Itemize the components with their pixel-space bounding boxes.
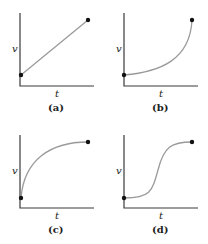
panel-b-curve <box>124 20 192 75</box>
panel-c-caption: (c) <box>48 224 64 235</box>
panel-d: v t (d) <box>116 135 198 235</box>
panel-b-end-dot <box>190 18 194 22</box>
panel-a-start-dot <box>19 73 23 77</box>
panel-a-caption: (a) <box>48 102 64 113</box>
figure-four-velocity-graphs: v t (a) v t (b) v t (c) v t (d) <box>0 0 208 244</box>
panel-b: v t (b) <box>116 13 198 113</box>
panel-c-axes <box>20 135 94 208</box>
panel-d-curve <box>124 142 192 198</box>
panel-c: v t (c) <box>12 135 94 235</box>
panel-d-xlabel: t <box>159 210 164 221</box>
panel-a-curve <box>21 20 88 75</box>
panel-a-xlabel: t <box>55 88 60 99</box>
panel-b-ylabel: v <box>116 43 122 54</box>
panel-a-end-dot <box>86 18 90 22</box>
panel-c-xlabel: t <box>55 210 60 221</box>
panel-c-start-dot <box>19 196 23 200</box>
panel-c-end-dot <box>86 140 90 144</box>
panel-c-ylabel: v <box>12 165 18 176</box>
panel-a: v t (a) <box>12 13 94 113</box>
panel-d-start-dot <box>122 196 126 200</box>
panel-b-axes <box>124 13 198 86</box>
panel-b-caption: (b) <box>152 102 168 113</box>
panel-a-ylabel: v <box>12 43 18 54</box>
panel-d-end-dot <box>190 140 194 144</box>
panel-d-ylabel: v <box>116 165 122 176</box>
panel-b-xlabel: t <box>159 88 164 99</box>
panel-b-start-dot <box>122 73 126 77</box>
panel-c-curve <box>21 142 88 198</box>
panel-d-caption: (d) <box>152 224 168 235</box>
